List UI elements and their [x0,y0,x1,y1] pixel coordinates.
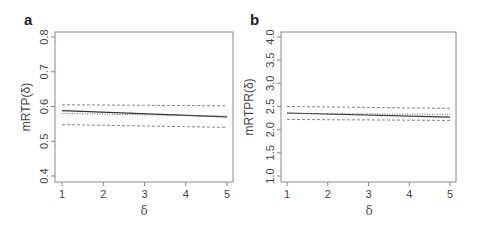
y-tick-label: 0.4 [38,168,50,183]
panel-a-x-axis: 12345 [59,182,230,200]
panel-b-series [287,107,450,121]
x-tick-label: 1 [59,188,65,200]
y-tick-label: 0.8 [38,29,50,44]
panel-b-chart: b 1.01.52.02.53.03.54.0 12345 mRTPR(δ) δ [242,11,456,218]
panel-a-chart: a 0.40.50.60.70.8 12345 mRTP(δ) δ [19,11,233,218]
y-tick-label: 2.0 [264,122,276,137]
x-tick-label: 2 [325,188,331,200]
series-line-upper-bound [287,107,450,109]
panel-b-x-axis: 12345 [284,182,453,200]
figure: a 0.40.50.60.70.8 12345 mRTP(δ) δ b 1.01… [0,0,477,225]
panel-a-plot-frame [55,32,233,182]
x-tick-label: 4 [183,188,189,200]
x-tick-label: 2 [100,188,106,200]
y-tick-label: 2.5 [264,99,276,114]
y-tick-label: 3.5 [264,53,276,68]
panel-b-y-axis: 1.01.52.02.53.03.54.0 [264,29,281,183]
panel-a-x-axis-title: δ [140,204,147,218]
y-tick-label: 1.5 [264,145,276,160]
x-tick-label: 5 [447,188,453,200]
y-tick-label: 1.0 [264,168,276,183]
panel-b-y-axis-title: mRTPR(δ) [242,78,256,135]
x-tick-label: 3 [141,188,147,200]
x-tick-label: 3 [365,188,371,200]
y-tick-label: 0.7 [38,64,50,79]
y-tick-label: 4.0 [264,29,276,44]
x-tick-label: 1 [284,188,290,200]
panel-b-x-axis-title: δ [365,204,372,218]
y-tick-label: 0.6 [38,99,50,114]
panel-a-label: a [24,11,33,28]
x-tick-label: 5 [224,188,230,200]
y-tick-label: 3.0 [264,76,276,91]
series-line-upper-bound [62,105,227,106]
series-line-lower-bound [62,125,227,128]
panel-b-label: b [250,11,259,28]
series-line-estimate [287,113,450,117]
panel-a-y-axis-title: mRTP(δ) [19,83,33,131]
series-line-lower-bound [287,119,450,120]
y-tick-label: 0.5 [38,134,50,149]
x-tick-label: 4 [406,188,412,200]
panel-a-y-axis: 0.40.50.60.70.8 [38,29,55,183]
panel-a-series [62,105,227,128]
